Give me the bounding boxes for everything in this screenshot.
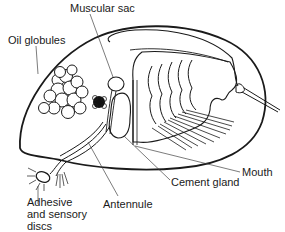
label-adhesive-line1: Adhesive [27,196,87,208]
thoracic-limbs [148,60,196,124]
label-adhesive-line3: discs [27,220,87,232]
oil-globules [39,65,89,119]
label-mouth: Mouth [242,166,273,178]
setae [152,110,234,150]
thorax [133,52,237,143]
cypris-larva-diagram: Muscular sac Oil globules Mouth Cement g… [0,0,285,232]
label-adhesive-line2: and sensory [27,208,87,220]
sensory-setae [27,168,68,191]
label-oil-globules: Oil globules [8,34,65,46]
label-cement-gland: Cement gland [171,176,240,188]
adhesive-disc [35,170,52,184]
muscular-sac [108,77,124,91]
label-antennule: Antennule [103,198,153,210]
compound-eye [93,96,107,109]
label-adhesive-sensory-discs: Adhesive and sensory discs [27,196,87,232]
dorsal-fold-inner [130,49,228,62]
label-muscular-sac: Muscular sac [70,2,135,14]
